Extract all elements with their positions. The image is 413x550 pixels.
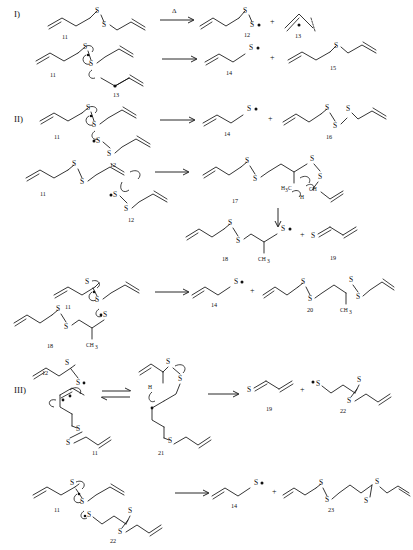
atom-sulfur: S (310, 154, 314, 163)
structure-22-a: S S S 22 (312, 375, 392, 414)
atom-sulfur: S (364, 496, 368, 505)
atom-sulfur: S (80, 497, 84, 506)
compound-number-14: 14 (211, 301, 217, 308)
compound-number-11: 11 (65, 303, 71, 310)
radical-dot (298, 24, 301, 27)
reaction-arrow-2 (162, 56, 197, 62)
compound-number-19: 19 (330, 254, 336, 261)
reaction-arrow-5 (155, 289, 189, 295)
atom-sulfur: S (334, 41, 338, 50)
structure-11-b: S S 11 (36, 42, 133, 78)
structure-19-a: S 19 (311, 227, 357, 261)
structure-18-b: S S S CH 3 18 (14, 304, 107, 350)
compound-number-17: 17 (232, 197, 238, 204)
atom-sulfur: S (103, 310, 107, 319)
radical-dot (87, 54, 90, 57)
atom-methyl: CH (86, 342, 94, 348)
structure-11-a: S S 11 (48, 6, 145, 40)
compound-number-19: 19 (266, 405, 272, 412)
atom-sulfur: S (247, 385, 251, 394)
atom-sulfur: S (316, 379, 320, 388)
compound-number-12: 12 (244, 31, 250, 38)
atom-sulfur: S (234, 277, 238, 286)
compound-number-11: 11 (62, 33, 68, 40)
structure-22-b: S S S 22 (87, 506, 162, 544)
compound-number-11: 11 (50, 71, 56, 78)
atom-sulfur: S (113, 190, 117, 199)
reaction-arrow-7 (175, 490, 209, 496)
atom-sulfur: S (308, 294, 312, 303)
radical-dot (62, 399, 65, 402)
atom-sulfur: S (168, 436, 172, 445)
radical-dot (93, 291, 96, 294)
atom-sulfur: S (95, 295, 99, 304)
atom-methyl-sub: 3 (349, 309, 352, 315)
reaction-arrow-4 (155, 169, 189, 175)
reaction-arrow-1: Δ (160, 7, 194, 23)
compound-number-14: 14 (224, 130, 230, 137)
atom-sulfur: S (236, 236, 240, 245)
atom-sulfur: S (375, 477, 379, 486)
structure-23: S S S S 23 (283, 477, 410, 513)
compound-number-13: 13 (113, 91, 119, 98)
compound-number-11: 11 (54, 133, 60, 140)
radical-dot (78, 493, 81, 496)
structure-13-b: 13 (101, 73, 143, 98)
atom-sulfur: S (65, 358, 69, 367)
atom-sulfur: S (301, 277, 305, 286)
compound-number-22: 22 (340, 407, 346, 414)
equilibrium-arrow (101, 388, 131, 400)
radical-dot (110, 194, 113, 197)
structure-14-a: S 14 (205, 43, 260, 76)
structure-11-c: S S 11 (40, 103, 136, 140)
atom-sulfur: S (64, 322, 68, 331)
structure-20: S S S S CH 3 20 (263, 275, 394, 315)
structure-12-d: S S 12 (33, 358, 85, 387)
atom-methyl: CH (258, 256, 266, 262)
atom-sulfur: S (247, 104, 251, 113)
compound-number-13: 13 (295, 32, 301, 39)
atom-methyl: CH (340, 307, 348, 313)
structure-21: S S S H 21 (139, 357, 211, 456)
atom-sulfur: S (249, 43, 253, 52)
reaction-arrow-3 (160, 117, 195, 123)
atom-sulfur: S (347, 396, 351, 405)
atom-sulfur: S (85, 277, 89, 286)
radical-dot (113, 84, 116, 87)
atom-sulfur: S (124, 204, 128, 213)
section-label-I: I) (14, 9, 20, 19)
atom-methyl-sub: 3 (267, 258, 270, 264)
scheme-canvas: I) S S 11 Δ S S 12 + 13 (0, 0, 413, 550)
structure-15: S 15 (288, 41, 376, 71)
atom-sulfur: S (76, 424, 80, 433)
atom-sulfur: S (96, 136, 100, 145)
compound-number-12: 12 (128, 216, 134, 223)
structure-11-g: S S 11 (33, 478, 124, 519)
atom-sulfur: S (95, 6, 99, 15)
atom-sulfur: S (66, 438, 70, 447)
compound-number-18: 18 (222, 255, 228, 262)
atom-sulfur: S (356, 292, 360, 301)
atom-sulfur: S (92, 120, 96, 129)
plus-operator: + (272, 487, 277, 496)
compound-number-16: 16 (326, 133, 332, 140)
radical-dot (93, 140, 96, 143)
atom-sulfur: S (333, 121, 337, 130)
structure-12-c: S S 12 (110, 190, 168, 223)
atom-sulfur: S (76, 378, 80, 387)
compound-number-11: 11 (92, 449, 98, 456)
radical-dot (69, 395, 72, 398)
structure-13-a: 13 (285, 14, 315, 39)
atom-sulfur: S (318, 172, 322, 181)
compound-number-23: 23 (328, 506, 334, 513)
atom-sulfur: S (178, 374, 182, 383)
plus-operator: + (270, 17, 275, 26)
atom-sulfur: S (311, 231, 315, 240)
radical-dot (84, 515, 87, 518)
atom-sulfur: S (319, 478, 323, 487)
structure-11-f: S S 11 (49, 388, 111, 456)
structure-12-a: S S 12 (200, 6, 261, 38)
structure-16: S S S 16 (283, 103, 386, 140)
structure-11-d: S S 11 (26, 159, 140, 197)
plus-operator: + (300, 385, 305, 394)
